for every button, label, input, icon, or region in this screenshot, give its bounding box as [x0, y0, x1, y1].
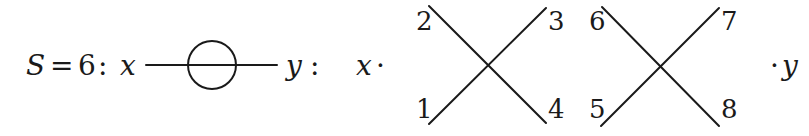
label-6: 6: [589, 6, 606, 36]
label-1: 1: [416, 94, 433, 124]
label-2: 2: [416, 6, 433, 36]
dot-left: ·: [376, 49, 385, 82]
self-energy-loop: [146, 41, 277, 89]
colon-1: :: [98, 49, 107, 82]
label-4: 4: [548, 94, 565, 124]
label-5: 5: [589, 94, 606, 124]
factor-y: y: [780, 49, 799, 82]
label-7: 7: [721, 6, 738, 36]
value-six: 6: [78, 49, 96, 82]
vertex-a: 2 3 1 4: [416, 6, 565, 124]
label-3: 3: [548, 6, 565, 36]
factor-x: x: [356, 49, 372, 82]
var-y-right: y: [284, 49, 303, 82]
symbol-s: S: [26, 49, 45, 82]
dot-right: ·: [770, 49, 779, 82]
feynman-diagram-equation: S = 6 : x y : x · 2 3 1 4 6 7 5 8 · y: [0, 0, 809, 136]
equals-sign: =: [50, 49, 73, 82]
colon-2: :: [310, 49, 319, 82]
var-x-left: x: [120, 49, 136, 82]
label-8: 8: [721, 94, 738, 124]
vertex-b: 6 7 5 8: [589, 6, 738, 126]
